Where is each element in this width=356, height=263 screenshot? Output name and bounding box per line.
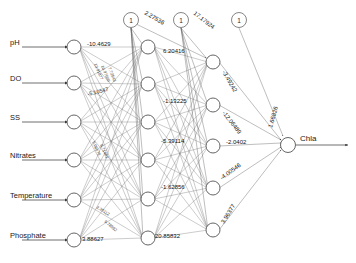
weight-label-bias-to-output: 1.66826 [267, 105, 279, 128]
input-label-ss: SS [10, 113, 20, 122]
weight-label-hidden1-bottom: 20.85832 [155, 233, 181, 239]
weight-label-hidden2-fourth-out: -4.00546 [219, 162, 242, 181]
input-label-do: DO [10, 74, 21, 83]
node-output-chla [281, 138, 296, 153]
node-input-ph [67, 40, 81, 54]
weight-label-do-to-hidden1: -5.10547 [87, 86, 109, 97]
weight-label-cluster-f: 2.35112 [95, 205, 111, 217]
weight-label-hidden1-lower: -1.62856 [161, 184, 185, 190]
node-input-temperature [67, 193, 81, 207]
hidden2-nodes [206, 55, 220, 237]
node-hidden2-5 [206, 223, 220, 237]
input-connectors [22, 47, 68, 240]
node-hidden2-1 [206, 55, 220, 69]
weight-label-cluster-g: 9.78592 [103, 219, 118, 233]
bias-node-3-label: 1 [237, 17, 241, 24]
node-hidden1-5 [141, 192, 155, 206]
node-hidden2-4 [206, 181, 220, 195]
edges-hidden2-to-output [219, 62, 281, 230]
weight-label-phosphate-edge: 3.88627 [82, 236, 104, 242]
bias-node-1-label: 1 [129, 17, 133, 24]
weight-label-bias1: 2.27536 [144, 10, 166, 26]
input-label-ph: pH [10, 38, 20, 47]
node-hidden1-2 [141, 77, 155, 91]
bias-node-2-label: 1 [179, 17, 183, 24]
weight-label-hidden1-middle: -5.39114 [161, 138, 185, 144]
node-hidden2-2 [206, 98, 220, 112]
weight-label-hidden2-bottom-out: 3.96377 [220, 202, 237, 224]
network-canvas: pH DO SS Nitrates Temperature Phosphate [0, 0, 356, 263]
input-label-temperature: Temperature [10, 191, 52, 200]
weight-label-hidden2-top-out: -3.49242 [221, 70, 238, 94]
neural-network-diagram: pH DO SS Nitrates Temperature Phosphate [0, 0, 356, 263]
output-label-chla: Chla [300, 134, 317, 143]
node-input-do [67, 76, 81, 90]
node-input-nitrates [67, 153, 81, 167]
node-input-phosphate [67, 233, 81, 247]
bias-nodes: 1 1 1 [124, 13, 247, 28]
node-hidden1-1 [141, 40, 155, 54]
weight-label-bias2: 17.17924 [192, 10, 216, 31]
weight-label-hidden2-middle-out: -2.0402 [226, 139, 247, 145]
node-hidden1-4 [141, 153, 155, 167]
weight-label-hidden1-top: 6.20416 [163, 48, 185, 54]
weight-label-ph-to-hidden1: -10.4629 [87, 41, 111, 47]
weight-labels: -10.4629 -5.10547 2.27536 17.17924 6.204… [82, 10, 279, 242]
node-hidden1-3 [141, 115, 155, 129]
input-label-nitrates: Nitrates [10, 151, 36, 160]
node-hidden2-3 [206, 139, 220, 153]
node-hidden1-6 [141, 231, 155, 245]
node-input-ss [67, 115, 81, 129]
weight-label-hidden2-second-out: -12.06489 [221, 110, 243, 136]
input-labels: pH DO SS Nitrates Temperature Phosphate [10, 38, 52, 240]
weight-label-hidden1-second: -1.13225 [163, 98, 187, 104]
input-label-phosphate: Phosphate [10, 231, 46, 240]
bias-edges [131, 23, 283, 238]
output-group: Chla [281, 134, 349, 153]
